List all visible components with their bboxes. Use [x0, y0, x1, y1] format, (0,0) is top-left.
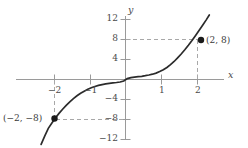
y-axis-label: y [128, 5, 133, 15]
y-tick-label--12: −12 [97, 134, 118, 143]
y-tick-label-12: 12 [104, 14, 118, 23]
point-label-positive: (2, 8) [206, 36, 230, 45]
y-tick-label-4: 4 [104, 54, 118, 63]
data-point-positive [198, 37, 204, 43]
x-tick-label-2: 2 [195, 86, 201, 95]
data-point-negative [51, 115, 57, 121]
point-label-negative: (−2, −8) [3, 114, 42, 123]
y-tick-label-8: 8 [104, 34, 118, 43]
plot-canvas [0, 0, 248, 148]
y-tick-label--4: −4 [100, 94, 118, 103]
x-tick-label--1: −1 [84, 86, 97, 95]
x-tick-label--2: −2 [48, 86, 61, 95]
x-axis-label: x [228, 70, 233, 80]
x-tick-label-1: 1 [159, 86, 165, 95]
graph-figure: 12 8 4 −4 −8 −12 −2 −1 1 2 y x (2, 8) (−… [0, 0, 248, 148]
y-tick-label--8: −8 [100, 114, 118, 123]
